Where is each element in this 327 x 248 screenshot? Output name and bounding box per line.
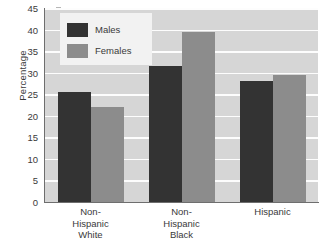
x-axis-label-line: Black [136, 229, 227, 241]
y-axis-tick-10: 10 [16, 153, 38, 164]
bar-males-0 [58, 92, 91, 202]
x-axis-label-line: Non- [136, 206, 227, 218]
y-axis-tick-5: 5 [16, 175, 38, 186]
legend-item-males: Males [67, 19, 146, 40]
legend-swatch-males-icon [67, 23, 88, 37]
y-axis-tick-35: 35 [16, 46, 38, 57]
x-axis-label-1: Non-HispanicBlack [136, 206, 227, 241]
y-axis-tick-25: 25 [16, 89, 38, 100]
bar-females-1 [182, 32, 215, 202]
y-axis-tick-30: 30 [16, 67, 38, 78]
bar-females-2 [273, 75, 306, 202]
legend-label-females: Females [95, 45, 131, 56]
bar-males-2 [240, 81, 273, 202]
y-axis-tick-15: 15 [16, 132, 38, 143]
legend: Males Females [60, 13, 152, 65]
x-axis-label-line: Hispanic [136, 218, 227, 230]
bar-chart: Percentage 051015202530354045 Males Fema… [0, 0, 327, 248]
x-axis-category-labels: Non-HispanicWhiteNon-HispanicBlackHispan… [45, 206, 318, 248]
legend-swatch-females-icon [67, 44, 88, 58]
x-axis-label-0: Non-HispanicWhite [45, 206, 136, 241]
y-axis-tick-40: 40 [16, 24, 38, 35]
x-axis-label-2: Hispanic [227, 206, 318, 218]
y-axis-tick-45: 45 [16, 3, 38, 14]
x-axis-label-line: Hispanic [45, 218, 136, 230]
gridline-45 [45, 8, 318, 10]
x-axis-line [44, 202, 319, 203]
x-axis-label-line: Hispanic [227, 206, 318, 218]
y-axis-tick-labels: 051015202530354045 [16, 0, 38, 248]
legend-item-females: Females [67, 40, 146, 61]
y-axis-tick-0: 0 [16, 197, 38, 208]
x-axis-label-line: Non- [45, 206, 136, 218]
bar-females-0 [91, 107, 124, 202]
legend-label-males: Males [95, 24, 120, 35]
x-axis-label-line: White [45, 229, 136, 241]
y-axis-tick-20: 20 [16, 110, 38, 121]
bar-males-1 [149, 66, 182, 202]
